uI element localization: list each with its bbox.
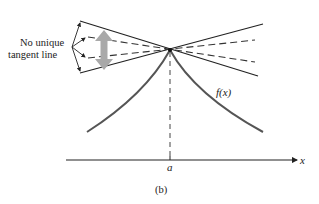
x-axis-label: x xyxy=(299,154,305,166)
pointer-arrow-1 xyxy=(72,23,80,47)
point-label-a: a xyxy=(167,161,173,173)
cusp-diagram: x a f(x) No unique tangent line (b) xyxy=(0,0,319,204)
annotation-line-2: tangent line xyxy=(8,49,58,60)
function-label: f(x) xyxy=(216,86,232,99)
annotation-line-1: No unique xyxy=(20,37,64,48)
cusp-point xyxy=(168,48,172,52)
gray-double-arrow-icon xyxy=(95,30,113,70)
figure-caption: (b) xyxy=(155,184,168,196)
